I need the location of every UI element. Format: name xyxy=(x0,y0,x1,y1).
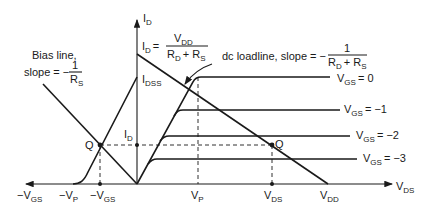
output-curve-vgs-3 xyxy=(148,159,357,164)
output-curve-vgs-2 xyxy=(160,136,350,141)
q-left-label: Q xyxy=(85,139,94,151)
id-q-label: ID xyxy=(124,128,133,143)
idss-label: IDSS xyxy=(142,73,162,88)
vds-dot xyxy=(270,182,274,186)
dc-loadline xyxy=(137,54,328,184)
loadline-pointer-arrow xyxy=(185,64,212,84)
vdd-label: VDD xyxy=(320,189,339,204)
bias-line-annotation: Bias line, slope = − 1 RS xyxy=(24,49,83,88)
dc-loadline-annotation: dc loadline, slope = − 1 RD+ RS xyxy=(222,42,367,71)
svg-text:RS: RS xyxy=(70,73,83,88)
vgs0-label: VGS= 0 xyxy=(337,72,374,87)
svg-text:VDD: VDD xyxy=(174,32,193,47)
id-intercept-equation: ID= VDD RD+ RS xyxy=(142,32,208,63)
neg-vgs-axis-label: −VGS xyxy=(17,189,42,204)
svg-text:dc loadline, slope = −: dc loadline, slope = − xyxy=(222,50,326,62)
vp-label: VP xyxy=(191,189,204,204)
id-dot xyxy=(135,143,139,147)
output-curve-vgs-1 xyxy=(174,110,340,116)
transfer-curve xyxy=(73,77,137,184)
q-point-left xyxy=(98,143,103,148)
svg-text:Bias line,: Bias line, xyxy=(32,49,77,61)
q-right-label: Q xyxy=(275,138,284,150)
neg-vgs-q-label: −VGS xyxy=(90,189,115,204)
svg-text:RD+ RS: RD+ RS xyxy=(167,48,206,63)
svg-text:1: 1 xyxy=(72,59,78,71)
q-point-right xyxy=(270,143,275,148)
jfet-bias-diagram: ID VDS −VGS −VP −VGS VP VDS VDD IDSS ID … xyxy=(0,0,430,211)
svg-text:slope = −: slope = − xyxy=(24,66,69,78)
vds-axis-label: VDS xyxy=(396,180,414,195)
neg-vgs-dot xyxy=(98,182,102,186)
neg-vp-label: −VP xyxy=(59,189,78,204)
svg-text:RD+ RS: RD+ RS xyxy=(328,56,367,71)
vgs-2-label: VGS= −2 xyxy=(356,129,399,144)
svg-text:ID=: ID= xyxy=(142,40,159,55)
vgs-3-label: VGS= −3 xyxy=(363,152,406,167)
output-curve-vgs0 xyxy=(137,77,330,184)
id-axis-label: ID xyxy=(143,12,152,27)
vgs-1-label: VGS= −1 xyxy=(344,103,387,118)
vds-q-label: VDS xyxy=(264,189,282,204)
svg-text:1: 1 xyxy=(344,42,350,54)
